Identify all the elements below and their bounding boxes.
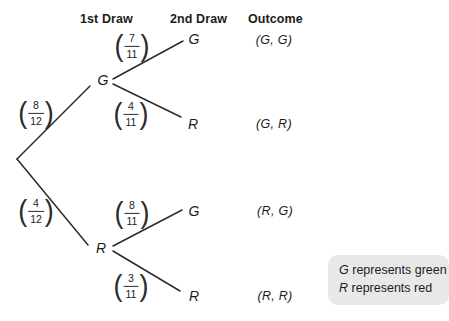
node-second-draw-gg: G [189, 31, 200, 47]
outcome-gr: (G, R) [256, 117, 292, 131]
node-first-draw-green: G [98, 72, 109, 88]
fraction-denominator: 11 [124, 114, 139, 129]
outcome-rr: (R, R) [257, 289, 292, 303]
column-header-first-draw: 1st Draw [80, 12, 133, 26]
probability-tree-diagram: 1st Draw 2nd Draw Outcome ( 8 12 ) ( 4 1… [0, 0, 449, 321]
open-paren: ( [115, 31, 124, 60]
legend-red-symbol: R [339, 281, 348, 295]
outcome-gg: (G, G) [256, 33, 293, 47]
close-paren: ) [140, 31, 149, 60]
node-first-draw-red: R [96, 240, 106, 256]
probability-7-11: ( 7 11 ) [115, 32, 150, 60]
legend-box: G represents green R represents red [328, 255, 449, 305]
legend-green-description: represents green [352, 263, 447, 277]
fraction-numerator: 4 [126, 100, 136, 114]
node-second-draw-rg: G [189, 203, 200, 219]
close-paren: ) [45, 196, 54, 225]
close-paren: ) [45, 98, 54, 127]
fraction-numerator: 3 [126, 272, 136, 286]
fraction-denominator: 12 [28, 113, 44, 128]
fraction-denominator: 12 [28, 211, 44, 226]
node-second-draw-rr: R [189, 288, 199, 304]
open-paren: ( [18, 196, 27, 225]
fraction-denominator: 11 [124, 286, 139, 301]
fraction-numerator: 8 [31, 99, 41, 113]
fraction-numerator: 7 [127, 32, 137, 46]
legend-green: G represents green [339, 263, 449, 279]
outcome-rg: (R, G) [257, 204, 293, 218]
legend-red: R represents red [339, 281, 449, 297]
probability-8-12: ( 8 12 ) [18, 99, 54, 127]
probability-8-11: ( 8 11 ) [115, 199, 150, 227]
fraction-numerator: 8 [127, 199, 137, 213]
fraction-denominator: 11 [125, 213, 140, 228]
close-paren: ) [140, 198, 149, 227]
open-paren: ( [115, 198, 124, 227]
column-header-outcome: Outcome [248, 12, 303, 26]
open-paren: ( [114, 271, 123, 300]
probability-4-11: ( 4 11 ) [114, 100, 149, 128]
fraction-denominator: 11 [125, 46, 140, 61]
probability-3-11: ( 3 11 ) [114, 272, 149, 300]
open-paren: ( [18, 98, 27, 127]
legend-green-symbol: G [339, 263, 349, 277]
close-paren: ) [139, 99, 148, 128]
column-header-second-draw: 2nd Draw [170, 12, 227, 26]
legend-red-description: represents red [352, 281, 433, 295]
close-paren: ) [139, 271, 148, 300]
probability-4-12: ( 4 12 ) [18, 197, 54, 225]
fraction-numerator: 4 [31, 197, 41, 211]
open-paren: ( [114, 99, 123, 128]
node-second-draw-gr: R [188, 116, 198, 132]
